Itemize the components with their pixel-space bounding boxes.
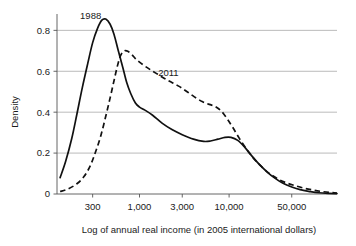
y-tick-label: 0 [45,188,50,199]
x-tick-label: 10,000 [215,201,244,212]
y-tick-label: 0.4 [37,107,50,118]
series-curve-1988 [60,19,337,194]
y-tick-label: 0.6 [37,66,50,77]
x-tick-label: 3,000 [170,201,194,212]
y-tick-label: 0.2 [37,147,50,158]
y-tick-labels: 00.20.40.60.8 [37,25,50,200]
x-tick-label: 50,000 [277,201,306,212]
curves-group [60,19,337,194]
series-curve-2011 [60,51,337,193]
axes-group [57,14,337,194]
x-tick-label: 1,000 [128,201,152,212]
series-annotations: 19882011 [80,10,179,78]
chart-canvas: 00.20.40.60.8 3001,0003,00010,00050,000 … [0,0,356,246]
density-chart: 00.20.40.60.8 3001,0003,00010,00050,000 … [0,0,356,246]
gridlines-group [57,30,337,153]
x-tick-labels: 3001,0003,00010,00050,000 [85,201,307,212]
x-tick-label: 300 [85,201,101,212]
y-axis-title: Density [9,96,20,128]
series-label-2011: 2011 [158,67,178,78]
y-tick-label: 0.8 [37,25,50,36]
series-label-1988: 1988 [80,10,101,21]
x-axis-title: Log of annual real income (in 2005 inter… [82,224,316,235]
